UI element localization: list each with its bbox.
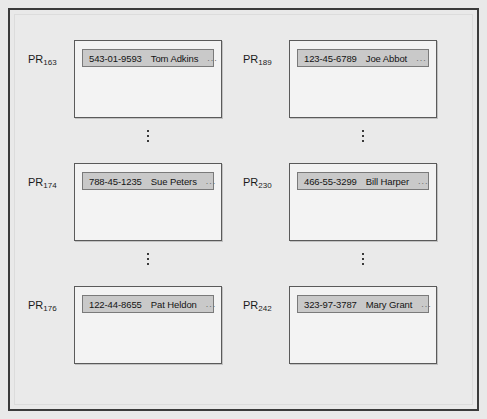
vertical-ellipsis-right-1 xyxy=(358,130,368,142)
ellipsis-dot xyxy=(362,130,364,132)
record-ssn: 323-97-3787 xyxy=(304,299,357,310)
page-label-right-3: PR242 xyxy=(243,300,272,313)
record-name: Bill Harper xyxy=(366,176,409,187)
ellipsis-dot xyxy=(147,263,149,265)
ellipsis-dot xyxy=(147,135,149,137)
page-label-prefix: PR xyxy=(243,299,258,311)
record-more-ellipsis: ... xyxy=(418,176,429,186)
page-label-left-1: PR163 xyxy=(28,54,57,67)
ellipsis-dot xyxy=(362,263,364,265)
page-label-subscript: 163 xyxy=(43,58,56,67)
record-ssn: 123-45-6789 xyxy=(304,53,357,64)
page-box-left-3[interactable]: 122-44-8655 Pat Heldon ... xyxy=(74,286,222,364)
record-name: Mary Grant xyxy=(366,299,413,310)
page-label-prefix: PR xyxy=(243,53,258,65)
record-more-ellipsis: ... xyxy=(207,53,218,63)
page-label-prefix: PR xyxy=(28,53,43,65)
page-box-right-1[interactable]: 123-45-6789 Joe Abbot ... xyxy=(289,40,437,118)
record-bar-right-2[interactable]: 466-55-3299 Bill Harper ... xyxy=(297,172,429,190)
page-label-subscript: 176 xyxy=(43,304,56,313)
page-label-right-2: PR230 xyxy=(243,177,272,190)
page-label-subscript: 189 xyxy=(258,58,271,67)
vertical-ellipsis-left-2 xyxy=(143,253,153,265)
page-box-left-1[interactable]: 543-01-9593 Tom Adkins ... xyxy=(74,40,222,118)
record-ssn: 543-01-9593 xyxy=(89,53,142,64)
page-box-right-3[interactable]: 323-97-3787 Mary Grant ... xyxy=(289,286,437,364)
record-bar-right-1[interactable]: 123-45-6789 Joe Abbot ... xyxy=(297,49,429,67)
ellipsis-dot xyxy=(362,135,364,137)
page-box-left-2[interactable]: 788-45-1235 Sue Peters ... xyxy=(74,163,222,241)
record-more-ellipsis: ... xyxy=(421,299,432,309)
record-ssn: 122-44-8655 xyxy=(89,299,142,310)
ellipsis-dot xyxy=(147,258,149,260)
record-more-ellipsis: ... xyxy=(206,176,217,186)
ellipsis-dot xyxy=(147,140,149,142)
record-bar-left-3[interactable]: 122-44-8655 Pat Heldon ... xyxy=(82,295,214,313)
ellipsis-dot xyxy=(362,140,364,142)
ellipsis-dot xyxy=(362,253,364,255)
record-more-ellipsis: ... xyxy=(206,299,217,309)
page-label-prefix: PR xyxy=(243,176,258,188)
record-bar-left-2[interactable]: 788-45-1235 Sue Peters ... xyxy=(82,172,214,190)
ellipsis-dot xyxy=(147,130,149,132)
record-name: Sue Peters xyxy=(151,176,197,187)
page-box-right-2[interactable]: 466-55-3299 Bill Harper ... xyxy=(289,163,437,241)
page-label-subscript: 230 xyxy=(258,181,271,190)
record-name: Joe Abbot xyxy=(366,53,407,64)
record-bar-right-3[interactable]: 323-97-3787 Mary Grant ... xyxy=(297,295,429,313)
record-ssn: 788-45-1235 xyxy=(89,176,142,187)
record-ssn: 466-55-3299 xyxy=(304,176,357,187)
ellipsis-dot xyxy=(147,253,149,255)
diagram-canvas: PR163 543-01-9593 Tom Adkins ... PR174 7… xyxy=(0,0,487,419)
page-label-left-2: PR174 xyxy=(28,177,57,190)
vertical-ellipsis-right-2 xyxy=(358,253,368,265)
ellipsis-dot xyxy=(362,258,364,260)
record-name: Pat Heldon xyxy=(151,299,197,310)
page-label-prefix: PR xyxy=(28,176,43,188)
record-bar-left-1[interactable]: 543-01-9593 Tom Adkins ... xyxy=(82,49,214,67)
page-label-prefix: PR xyxy=(28,299,43,311)
record-name: Tom Adkins xyxy=(151,53,199,64)
page-label-subscript: 174 xyxy=(43,181,56,190)
page-label-right-1: PR189 xyxy=(243,54,272,67)
page-label-subscript: 242 xyxy=(258,304,271,313)
page-label-left-3: PR176 xyxy=(28,300,57,313)
record-more-ellipsis: ... xyxy=(416,53,427,63)
page-grid: PR163 543-01-9593 Tom Adkins ... PR174 7… xyxy=(0,0,487,419)
vertical-ellipsis-left-1 xyxy=(143,130,153,142)
